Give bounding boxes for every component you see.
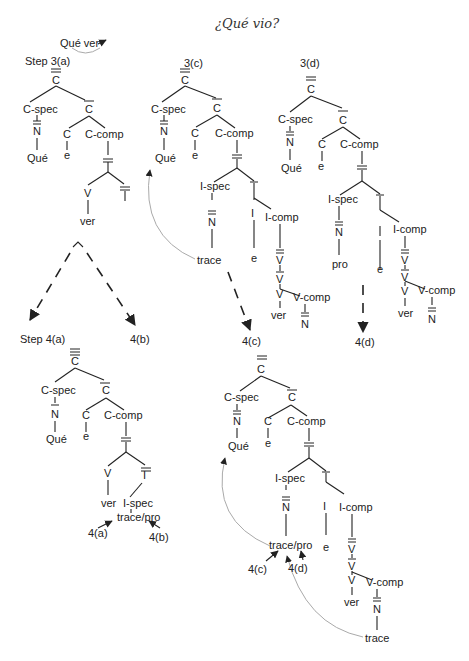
node-n: N — [335, 226, 343, 238]
node-n: N — [373, 603, 381, 615]
node-i-bar: I — [143, 469, 146, 481]
node-v: V — [348, 574, 356, 586]
node-pro: pro — [332, 258, 348, 270]
node-c-bar: C — [213, 102, 221, 114]
arrow-label-4b: 4(b) — [149, 531, 169, 543]
node-c-bar: C — [288, 391, 296, 403]
node-i-spec: I-spec — [275, 472, 305, 484]
node-c-comp: C-comp — [104, 409, 143, 421]
node-v-comp: V-comp — [293, 291, 330, 303]
node-n: N — [233, 415, 241, 427]
node-n: N — [282, 501, 290, 513]
dashed-arrow-to-4c — [228, 272, 250, 330]
node-i: I — [323, 500, 326, 512]
diagram-title: ¿Qué vio? — [215, 16, 280, 31]
node-trace: trace — [197, 254, 221, 266]
node-c-bar: C — [102, 384, 110, 396]
node-que: Qué — [281, 162, 302, 174]
node-e: e — [265, 437, 271, 449]
step-4d-label: 4(d) — [355, 336, 375, 348]
node-n: N — [208, 216, 216, 228]
node-c-spec: C-spec — [41, 384, 76, 396]
node-c-spec: C-spec — [23, 103, 58, 115]
node-ver: ver — [398, 307, 414, 319]
node-c-comp: C-comp — [340, 138, 379, 150]
node-n: N — [286, 136, 294, 148]
node-c-double-bar: C — [181, 74, 189, 86]
node-ver: ver — [344, 596, 360, 608]
node-v: V — [84, 187, 92, 199]
step-3d-label: 3(d) — [300, 57, 320, 69]
step-3a-label: Step 3(a) — [25, 55, 70, 67]
node-trace-pro: trace/pro — [117, 511, 160, 523]
node-c: C — [264, 415, 272, 427]
node-c-bar: C — [339, 114, 347, 126]
node-que: Qué — [27, 152, 48, 164]
movement-arrow-tracepro-to-que — [222, 458, 270, 546]
step-4a-label: Step 4(a) — [20, 333, 65, 345]
branch-apex — [73, 242, 83, 247]
arrow-label-4a: 4(a) — [88, 527, 108, 539]
arrow-label-4c: 4(c) — [248, 563, 267, 575]
node-e: e — [377, 263, 383, 275]
node-c-bar: C — [85, 103, 93, 115]
tree-step-4ab: C C-spec C N Qué C e C-comp V ver I I-sp… — [41, 349, 169, 543]
step-4b-label: 4(b) — [130, 333, 150, 345]
dashed-arrow-to-4a — [30, 253, 70, 320]
step-4c-label: 4(c) — [242, 335, 261, 347]
dashed-arrow-to-4b — [87, 253, 135, 325]
node-e: e — [64, 149, 70, 161]
tree-step-4cd: C C-spec C N Qué C e C-comp I-spec N tra… — [222, 356, 403, 644]
tree-step-3a: Qué ver Step 3(a) C C-spec C N Qué C e C… — [23, 37, 135, 325]
node-que: Qué — [228, 440, 249, 452]
node-que: Qué — [46, 433, 67, 445]
step-3c-label: 3(c) — [184, 57, 203, 69]
node-n: N — [301, 318, 309, 330]
node-c-spec: C-spec — [278, 113, 313, 125]
node-n: N — [51, 408, 59, 420]
node-v-double-bar: V — [401, 254, 409, 266]
arrow-label-4d: 4(d) — [288, 562, 308, 574]
node-v-comp: V-comp — [366, 576, 403, 588]
node-c-spec: C-spec — [151, 103, 186, 115]
node-c-spec: C-spec — [224, 391, 259, 403]
node-c: C — [318, 138, 326, 150]
node-c-double-bar: C — [71, 355, 79, 367]
node-e: e — [323, 541, 329, 553]
node-v-double-bar: V — [276, 254, 284, 266]
node-i-comp: I-comp — [393, 223, 427, 235]
que-ver-arrow — [98, 40, 106, 44]
node-i-comp: I-comp — [339, 501, 373, 513]
node-v: V — [401, 285, 409, 297]
node-v-bar: V — [276, 273, 284, 285]
node-i-spec: I-spec — [328, 193, 358, 205]
node-n: N — [160, 125, 168, 137]
node-v: V — [276, 288, 284, 300]
node-ver: ver — [101, 497, 117, 509]
node-n: N — [428, 313, 436, 325]
node-v: V — [104, 467, 112, 479]
tree-step-3c: 3(c) C C-spec C N Qué C e C-comp I-spec … — [148, 57, 330, 330]
arrow-4d — [301, 551, 303, 560]
node-i-comp: I-comp — [265, 211, 299, 223]
node-c: C — [82, 409, 90, 421]
node-que: Qué — [155, 152, 176, 164]
node-c-double-bar: C — [52, 74, 60, 86]
node-c-double-bar: C — [307, 83, 315, 95]
annotation-que-ver: Qué ver — [60, 37, 99, 49]
node-c: C — [63, 128, 71, 140]
node-c-comp: C-comp — [215, 127, 254, 139]
node-c-comp: C-comp — [85, 128, 124, 140]
node-i-spec: I-spec — [200, 180, 230, 192]
movement-arrow-trace-to-que — [148, 170, 195, 259]
node-e: e — [318, 160, 324, 172]
node-v-comp: V-comp — [418, 284, 455, 296]
node-i: I — [251, 207, 254, 219]
node-e: e — [192, 149, 198, 161]
node-v-double-bar: V — [348, 543, 356, 555]
arrow-4c — [266, 551, 278, 561]
node-e: e — [251, 252, 257, 264]
node-i-spec: I-spec — [123, 497, 153, 509]
syntax-tree-diagram: ¿Qué vio? Qué ver Step 3(a) C C-spec C N… — [0, 0, 469, 661]
node-c-double-bar: C — [257, 363, 265, 375]
